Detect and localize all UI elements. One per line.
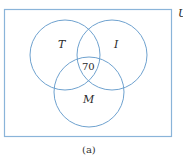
triple-intersection-value: 70 (82, 61, 95, 72)
set-t-label: T (58, 38, 67, 51)
set-m-label: M (82, 93, 95, 106)
set-i-circle (77, 20, 147, 90)
set-t-circle (30, 20, 100, 90)
set-i-label: I (113, 38, 119, 51)
universe-label: U (178, 7, 183, 20)
venn-diagram: U T I M 70 (a) (0, 0, 183, 160)
figure-caption: (a) (82, 144, 96, 155)
